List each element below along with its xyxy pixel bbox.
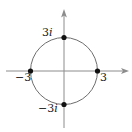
label-3i: 3i — [42, 27, 53, 38]
label-3i-unit: i — [49, 26, 53, 39]
label-negative-3: −3 — [15, 72, 31, 83]
point-neg3i — [61, 102, 66, 107]
label-positive-3: 3 — [100, 72, 107, 83]
label-negative-3i-value: −3 — [38, 102, 54, 115]
complex-plane-figure: 3i −3 3 −3i — [0, 0, 132, 132]
point-3i — [61, 35, 66, 40]
plot-canvas — [0, 0, 132, 132]
label-negative-3i: −3i — [38, 103, 58, 114]
label-3i-value: 3 — [42, 26, 49, 39]
label-negative-3i-unit: i — [54, 102, 58, 115]
